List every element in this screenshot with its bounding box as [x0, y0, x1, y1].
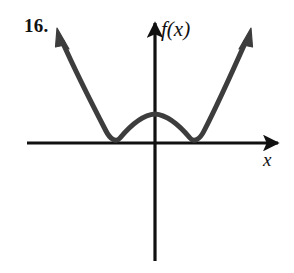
y-axis-function-label: f(x)	[161, 19, 190, 40]
problem-number-label: 16.	[24, 16, 48, 35]
x-axis-label: x	[263, 150, 271, 169]
math-figure: 16. f(x) x	[0, 0, 294, 273]
graph-canvas	[0, 0, 294, 273]
curve-left-arrowhead	[56, 28, 70, 49]
curve-right-arrowhead	[239, 28, 253, 49]
